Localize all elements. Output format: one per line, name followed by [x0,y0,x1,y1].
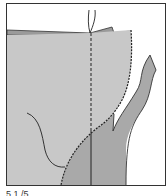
pattern-diagram [0,0,166,196]
figure-caption: 5.1 /5 ... [6,188,166,196]
diagram-svg [0,0,166,196]
